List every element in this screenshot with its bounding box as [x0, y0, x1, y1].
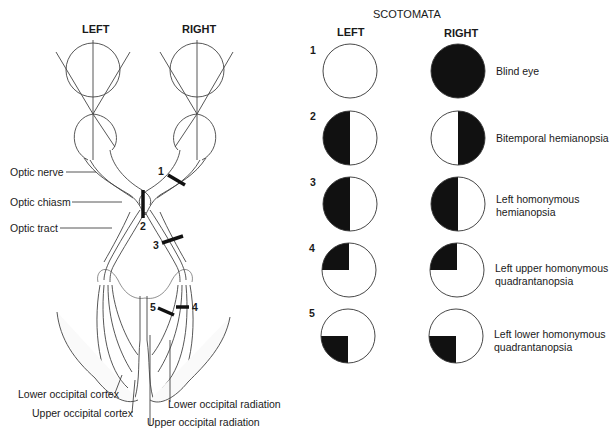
right-eye-header: RIGHT: [182, 23, 216, 35]
scotoma-row-number: 5: [309, 307, 315, 319]
scotoma-description: Bitemporal hemianopsia: [496, 132, 609, 145]
lower-occipital-radiation-label: Lower occipital radiation: [168, 398, 281, 410]
scotomata-title: SCOTOMATA: [373, 8, 441, 20]
scotoma-description: Left lower homonymous quadrantanopsia: [494, 328, 605, 354]
lesion-number-2: 2: [140, 220, 146, 232]
optic-nerve-label: Optic nerve: [10, 166, 64, 178]
upper-occipital-radiation-label: Upper occipital radiation: [147, 416, 260, 428]
scotoma-row-number: 2: [310, 110, 316, 122]
lesion-number-3: 3: [153, 239, 159, 251]
left-eye-header: LEFT: [82, 23, 110, 35]
scotoma-row-number: 1: [310, 44, 316, 56]
scotoma-row-number: 3: [310, 176, 316, 188]
lower-occipital-cortex-label: Lower occipital cortex: [18, 388, 119, 400]
scotoma-description: Blind eye: [496, 65, 539, 78]
lesion-number-5: 5: [150, 301, 156, 313]
scotomata-left-header: LEFT: [337, 26, 365, 38]
scotomata-right-header: RIGHT: [444, 27, 478, 39]
scotoma-description: Left upper homonymous quadrantanopsia: [495, 262, 608, 288]
lesion-number-1: 1: [158, 165, 164, 177]
scotoma-grid: [321, 44, 485, 363]
scotoma-description: Left homonymous hemianopsia: [496, 193, 579, 219]
optic-chiasm-label: Optic chiasm: [10, 196, 71, 208]
optic-tract-label: Optic tract: [10, 222, 58, 234]
upper-occipital-cortex-label: Upper occipital cortex: [32, 407, 133, 419]
lesion-5: [158, 308, 174, 315]
lesion-number-4: 4: [192, 301, 198, 313]
scotoma-row-number: 4: [309, 242, 315, 254]
